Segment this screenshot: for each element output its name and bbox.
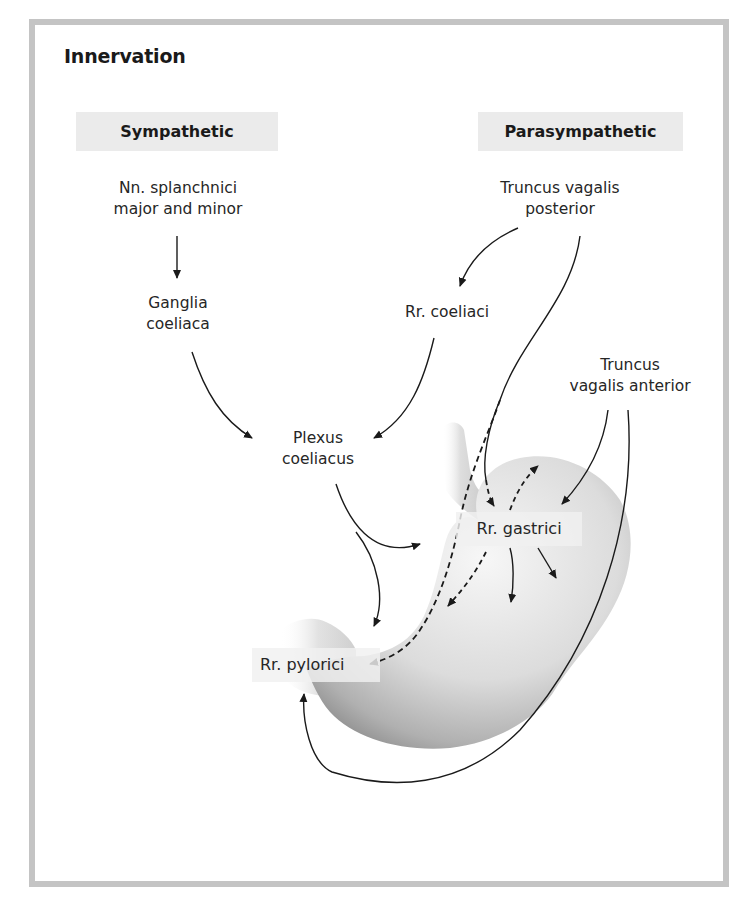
arrow-plexus-to-pylorus: [356, 532, 380, 626]
label-nn-splanchnici: Nn. splanchnici major and minor: [98, 178, 258, 220]
label-plexus-line2: coeliacus: [258, 449, 378, 470]
arrow-plexus-to-lesser-curvature: [336, 484, 420, 548]
label-plexus-coeliacus: Plexus coeliacus: [258, 428, 378, 470]
label-truncus-anterior-line1: Truncus: [560, 355, 700, 376]
label-rr-pylorici: Rr. pylorici: [252, 648, 380, 682]
label-ganglia-line2: coeliaca: [118, 314, 238, 335]
arrow-ganglia-to-plexus: [192, 352, 252, 438]
label-ganglia-line1: Ganglia: [118, 293, 238, 314]
arrow-coeliaci-to-plexus: [374, 338, 434, 438]
label-truncus-posterior: Truncus vagalis posterior: [480, 178, 640, 220]
label-plexus-line1: Plexus: [258, 428, 378, 449]
label-rr-coeliaci: Rr. coeliaci: [392, 302, 502, 323]
label-truncus-posterior-line1: Truncus vagalis: [480, 178, 640, 199]
label-nn-splanchnici-line1: Nn. splanchnici: [98, 178, 258, 199]
label-rr-gastrici: Rr. gastrici: [456, 512, 582, 546]
label-truncus-anterior: Truncus vagalis anterior: [560, 355, 700, 397]
label-truncus-posterior-line2: posterior: [480, 199, 640, 220]
label-ganglia-coeliaca: Ganglia coeliaca: [118, 293, 238, 335]
label-truncus-anterior-line2: vagalis anterior: [560, 376, 700, 397]
arrow-posterior-to-coeliaci: [460, 228, 518, 286]
label-nn-splanchnici-line2: major and minor: [98, 199, 258, 220]
